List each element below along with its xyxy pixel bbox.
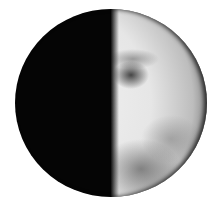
moon-disc: [15, 9, 207, 197]
moon-lit-half: [111, 9, 207, 197]
